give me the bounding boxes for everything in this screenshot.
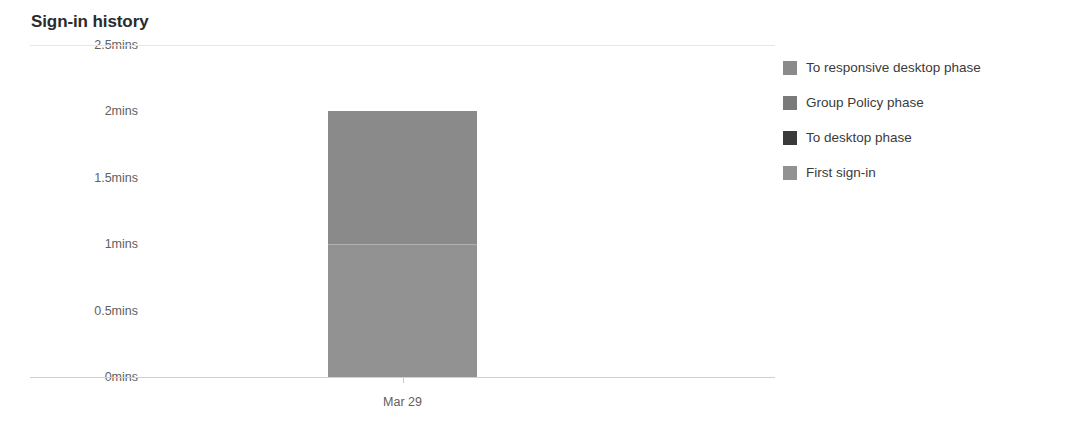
legend-swatch-icon (783, 166, 797, 180)
legend-item[interactable]: To responsive desktop phase (783, 50, 1063, 85)
x-axis-tick-mark (403, 378, 404, 383)
sign-in-history-chart-card: Sign-in history 2.5mins2mins1.5mins1mins… (0, 0, 1069, 433)
legend-item-label: To responsive desktop phase (806, 61, 981, 75)
legend-item[interactable]: To desktop phase (783, 120, 1063, 155)
chart-legend: To responsive desktop phaseGroup Policy … (783, 50, 1063, 190)
bar-segment[interactable] (328, 111, 477, 244)
bar-group[interactable] (328, 111, 477, 377)
legend-swatch-icon (783, 61, 797, 75)
plot-area (30, 45, 775, 378)
bar-segment[interactable] (328, 244, 477, 377)
bars-layer (30, 45, 775, 378)
x-axis-tick-label: Mar 29 (383, 395, 422, 409)
legend-item-label: Group Policy phase (806, 96, 924, 110)
legend-item-label: To desktop phase (806, 131, 912, 145)
page-title: Sign-in history (31, 12, 149, 32)
legend-item[interactable]: First sign-in (783, 155, 1063, 190)
legend-item[interactable]: Group Policy phase (783, 85, 1063, 120)
x-axis: Mar 29 (30, 395, 775, 419)
legend-swatch-icon (783, 96, 797, 110)
legend-swatch-icon (783, 131, 797, 145)
legend-item-label: First sign-in (806, 166, 876, 180)
